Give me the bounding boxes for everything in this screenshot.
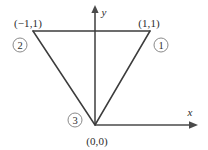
vertex-marker-2: 2 <box>13 38 27 52</box>
x-axis-label: x <box>187 106 193 118</box>
vertex-marker-1: 1 <box>154 38 168 52</box>
y-axis-arrowhead <box>91 5 98 13</box>
vertex-marker-1-number: 1 <box>158 40 163 51</box>
triangle-edge-left <box>33 31 95 125</box>
triangle-edge-right <box>95 31 150 125</box>
vertex-marker-3-number: 3 <box>72 115 77 126</box>
figure-container: (−1,1) (1,1) (0,0) y x 1 2 3 <box>0 0 208 150</box>
vertex-marker-2-number: 2 <box>17 40 22 51</box>
x-axis-arrowhead <box>189 121 198 128</box>
y-axis-label: y <box>101 6 107 18</box>
vertex-marker-3: 3 <box>68 113 82 127</box>
coord-label-vertex-3: (0,0) <box>86 135 108 148</box>
coord-label-vertex-2: (−1,1) <box>14 17 42 30</box>
coord-label-vertex-1: (1,1) <box>138 17 160 30</box>
triangle-diagram: (−1,1) (1,1) (0,0) y x 1 2 3 <box>0 0 208 150</box>
